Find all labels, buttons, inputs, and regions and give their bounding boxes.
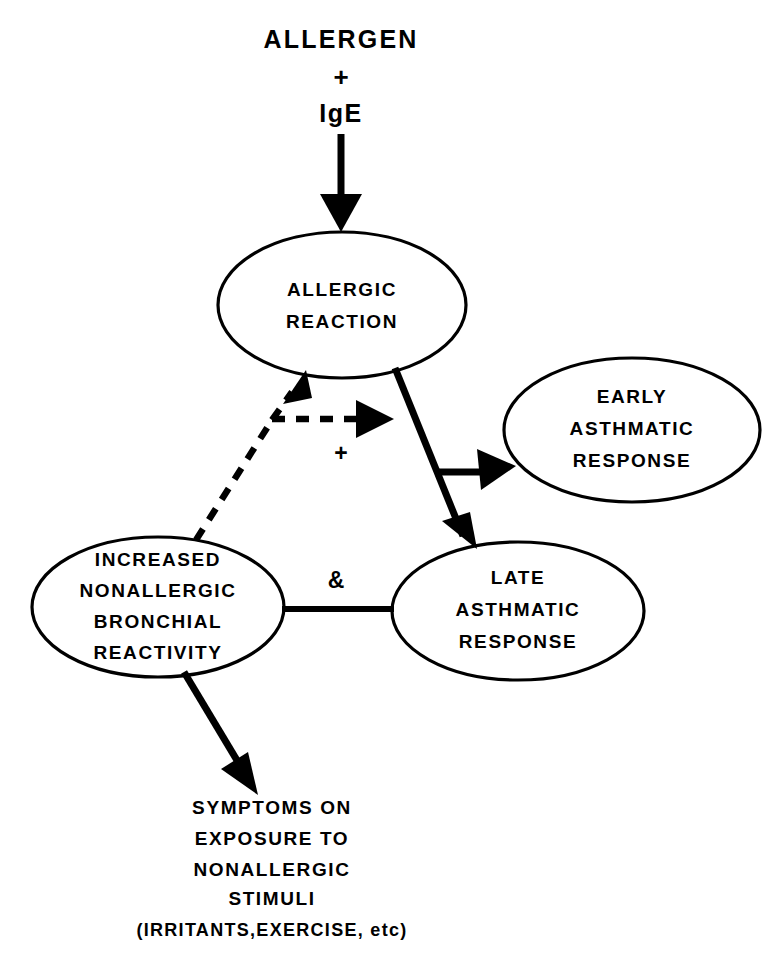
- increased-reactivity-line2: NONALLERGIC: [80, 580, 237, 601]
- plus-operator-label: +: [334, 440, 347, 466]
- early-asthmatic-line3: RESPONSE: [573, 450, 691, 471]
- late-asthmatic-line3: RESPONSE: [459, 631, 577, 652]
- late-asthmatic-line1: LATE: [491, 567, 546, 588]
- arrow-head-to-symptoms: [221, 752, 258, 795]
- edge-ampersand-connector: &: [282, 567, 394, 609]
- increased-reactivity-line4: REACTIVITY: [94, 642, 223, 663]
- outcome-line3: NONALLERGIC: [194, 859, 351, 880]
- outcome-line2: EXPOSURE TO: [195, 828, 350, 849]
- allergic-reaction-line1: ALLERGIC: [287, 279, 397, 300]
- arrow-head-to-late-asthmatic: [442, 512, 477, 549]
- edge-dashed-feedback: +: [196, 370, 394, 540]
- dashed-diagonal-segment: [196, 420, 272, 540]
- allergic-reaction-line2: REACTION: [286, 311, 398, 332]
- early-asthmatic-line2: ASTHMATIC: [570, 418, 695, 439]
- increased-reactivity-line1: INCREASED: [95, 549, 221, 570]
- ige-label: IgE: [319, 99, 362, 127]
- outcome-line4: STIMULI: [228, 888, 315, 909]
- symptoms-arrow-shaft: [184, 672, 241, 767]
- node-early-asthmatic-response[interactable]: EARLY ASTHMATIC RESPONSE: [504, 358, 760, 502]
- branch-trunk: [395, 368, 463, 536]
- arrow-head-dashed-right: [356, 400, 394, 438]
- node-allergic-reaction[interactable]: ALLERGIC REACTION: [218, 232, 466, 378]
- node-late-asthmatic-response[interactable]: LATE ASTHMATIC RESPONSE: [392, 542, 644, 680]
- late-asthmatic-line2: ASTHMATIC: [456, 599, 581, 620]
- outcome-line5-parenthetical: (IRRITANTS,EXERCISE, etc): [136, 920, 407, 940]
- diagram-canvas: ALLERGEN + IgE ALLERGIC REACTION EARLY A…: [0, 0, 779, 958]
- arrow-allergen-to-allergic-reaction: [320, 134, 362, 232]
- edge-reactivity-to-symptoms: [184, 672, 258, 795]
- increased-reactivity-line3: BRONCHIAL: [94, 611, 222, 632]
- arrow-head-to-early-asthmatic: [477, 449, 516, 490]
- arrow-head-down: [320, 194, 362, 232]
- allergic-reaction-ellipse[interactable]: [218, 232, 466, 378]
- outcome-line1: SYMPTOMS ON: [192, 797, 352, 818]
- outcome-text-block: SYMPTOMS ON EXPOSURE TO NONALLERGIC STIM…: [136, 797, 407, 940]
- early-asthmatic-line1: EARLY: [597, 386, 668, 407]
- edge-allergic-reaction-branch: [395, 368, 516, 549]
- ampersand-operator-label: &: [328, 567, 345, 593]
- allergen-plus-symbol: +: [333, 62, 348, 92]
- allergen-label: ALLERGEN: [263, 25, 418, 53]
- asthma-pathway-diagram: ALLERGEN + IgE ALLERGIC REACTION EARLY A…: [0, 0, 779, 958]
- node-increased-nonallergic-bronchial-reactivity[interactable]: INCREASED NONALLERGIC BRONCHIAL REACTIVI…: [32, 537, 284, 677]
